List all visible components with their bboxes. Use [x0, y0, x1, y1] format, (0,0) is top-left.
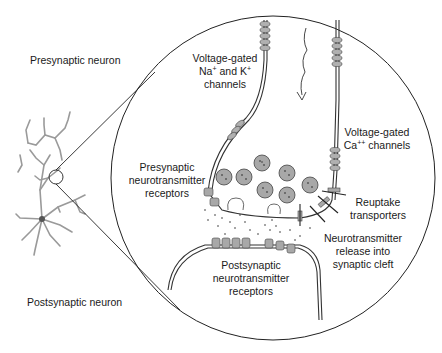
zoom-line-top	[56, 72, 155, 170]
reuptake-transporters-label: Reuptake transporters	[345, 196, 411, 222]
synaptic-vesicles	[216, 155, 318, 203]
neuron-nucleus	[39, 216, 45, 222]
synapse-diagram: Presynaptic neuron Postsynaptic neuron V…	[0, 0, 442, 353]
reuptake-arrows	[300, 191, 346, 226]
exocytosis-vesicles	[228, 198, 281, 214]
vg-na-k-channels-label: Voltage-gated Na+ and K+ channels	[185, 52, 265, 91]
presynaptic-neuron-label: Presynaptic neuron	[30, 54, 120, 67]
neuron-cell-icon	[16, 112, 85, 255]
action-potential-arrow	[301, 28, 307, 95]
neurotransmitter-release-label: Neurotransmitter release into synaptic c…	[322, 232, 404, 271]
presynaptic-terminal	[208, 20, 339, 218]
neurotransmitter-molecules	[204, 209, 311, 241]
postsynaptic-neuron-label: Postsynaptic neuron	[27, 296, 122, 309]
zoom-line-bottom	[56, 184, 180, 310]
presynaptic-receptors-label: Presynaptic neurotransmitter receptors	[126, 161, 208, 200]
postsynaptic-receptors-label: Postsynaptic neurotransmitter receptors	[208, 259, 294, 298]
vg-ca-channels-label: Voltage-gated Ca++ channels	[340, 126, 414, 152]
